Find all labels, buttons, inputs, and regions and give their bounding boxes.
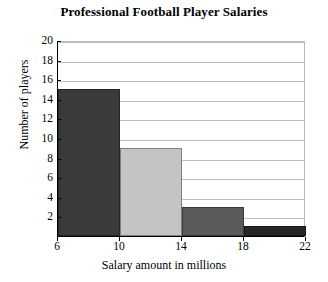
y-tick-mark [57, 159, 61, 160]
y-tick-label: 2 [31, 211, 53, 223]
y-tick-mark [57, 41, 61, 42]
y-tick-mark [57, 119, 61, 120]
x-tick-mark [243, 237, 244, 241]
y-tick-mark [57, 100, 61, 101]
y-tick-mark [57, 178, 61, 179]
x-tick-mark [57, 237, 58, 241]
y-tick-label: 20 [31, 35, 53, 47]
x-tick-mark [305, 237, 306, 241]
bar-18-22 [244, 226, 306, 236]
y-tick-label: 16 [31, 74, 53, 86]
plot-area [57, 41, 305, 237]
x-tick-mark [119, 237, 120, 241]
bar-14-18 [182, 207, 244, 236]
y-axis-tick-labels: 2468101214161820 [29, 41, 53, 237]
x-tick-label: 6 [42, 240, 72, 252]
y-tick-mark [57, 80, 61, 81]
y-tick-mark [57, 61, 61, 62]
y-tick-label: 4 [31, 192, 53, 204]
y-tick-mark [57, 198, 61, 199]
x-tick-label: 10 [104, 240, 134, 252]
bar-10-14 [120, 148, 182, 236]
x-tick-mark [181, 237, 182, 241]
x-tick-label: 22 [290, 240, 320, 252]
x-tick-label: 14 [166, 240, 196, 252]
y-tick-label: 12 [31, 113, 53, 125]
chart-page: Professional Football Player Salaries Nu… [0, 0, 328, 282]
x-tick-label: 18 [228, 240, 258, 252]
y-tick-mark [57, 217, 61, 218]
y-tick-label: 8 [31, 153, 53, 165]
y-tick-label: 6 [31, 172, 53, 184]
x-axis-title: Salary amount in millions [0, 258, 328, 273]
bar-6-10 [58, 89, 120, 236]
y-tick-label: 10 [31, 133, 53, 145]
page-title: Professional Football Player Salaries [0, 4, 328, 20]
y-tick-label: 18 [31, 55, 53, 67]
bar-series [58, 42, 304, 236]
y-tick-mark [57, 139, 61, 140]
y-tick-label: 14 [31, 94, 53, 106]
